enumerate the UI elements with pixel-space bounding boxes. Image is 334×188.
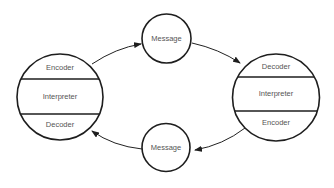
right-party-encoder-label: Encoder bbox=[262, 118, 290, 127]
left-party-encoder-label: Encoder bbox=[46, 63, 74, 72]
communication-diagram: Encoder Interpreter Decoder Decoder Inte… bbox=[0, 0, 334, 188]
arrow-encoder-to-top-message bbox=[92, 44, 141, 64]
left-party-interpreter-label: Interpreter bbox=[43, 92, 78, 101]
left-party-decoder-label: Decoder bbox=[46, 120, 75, 129]
arrow-top-message-to-decoder bbox=[192, 43, 240, 63]
right-party-decoder-label: Decoder bbox=[262, 62, 291, 71]
bottom-message-node: Message bbox=[142, 124, 190, 172]
arrow-encoder-to-bottom-message bbox=[195, 128, 245, 150]
bottom-message-label: Message bbox=[151, 143, 181, 152]
right-party-interpreter-label: Interpreter bbox=[259, 89, 294, 98]
right-party-node: Decoder Interpreter Encoder bbox=[230, 54, 322, 141]
left-party-node: Encoder Interpreter Decoder bbox=[15, 54, 105, 140]
top-message-label: Message bbox=[151, 34, 181, 43]
arrow-bottom-message-to-decoder bbox=[92, 131, 142, 149]
top-message-node: Message bbox=[142, 14, 191, 63]
